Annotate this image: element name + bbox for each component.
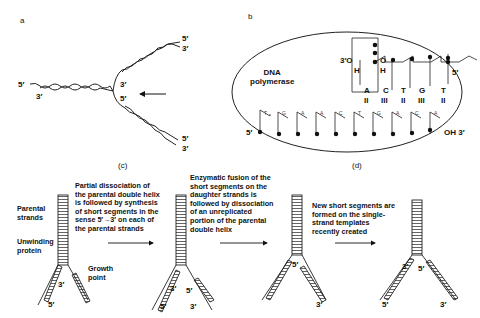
label: OH 3′ <box>444 128 465 137</box>
label: 3′O <box>340 56 353 65</box>
bond: II <box>364 96 368 105</box>
label: 3′ <box>182 44 188 53</box>
base: C <box>383 86 389 95</box>
label: 5′ <box>48 300 54 309</box>
panel-d-letter: (d) <box>352 161 362 170</box>
label: 5′ <box>418 264 424 273</box>
label: 5′ <box>18 80 24 89</box>
label: 5′ <box>186 286 192 295</box>
template-base: C <box>339 110 343 116</box>
base: T <box>401 86 406 95</box>
enzyme-label: DNA polymerase <box>250 68 294 86</box>
bond: II <box>441 96 445 105</box>
bond: II <box>401 96 405 105</box>
label: 5′ <box>246 128 252 137</box>
template-base: A <box>320 110 323 116</box>
label: 5′ <box>120 94 126 103</box>
panel-c-letter: (c) <box>118 161 127 170</box>
label: 3′ <box>440 300 446 309</box>
label: 5′ <box>292 260 298 269</box>
base: A <box>364 86 370 95</box>
template-base: T <box>358 110 361 116</box>
label: 5′ <box>182 34 188 43</box>
label: 3′ <box>58 280 64 289</box>
step1-caption: Partial dissociation of the parental dou… <box>75 182 160 234</box>
panel-b-letter: b <box>248 12 252 21</box>
bond: III <box>381 96 388 105</box>
template-base: G <box>282 110 286 116</box>
label: 5′ <box>182 134 188 143</box>
label: H <box>354 66 360 75</box>
template-base: T <box>264 110 267 116</box>
label: 3′ <box>170 284 176 293</box>
label: 3′ <box>402 262 408 271</box>
parental-strands-label: Parental strands <box>17 205 45 222</box>
label: 5′ <box>452 68 458 77</box>
label: 3′ <box>120 80 126 89</box>
label: 5′ <box>160 302 166 311</box>
step2-caption: Enzymatic fusion of the short segments o… <box>190 174 273 234</box>
step3-caption: New short segments are formed on the sin… <box>312 202 395 236</box>
template-base: G <box>377 110 381 116</box>
label: 3′ <box>190 302 196 311</box>
unwinding-protein-label: Unwinding protein <box>17 238 54 255</box>
template-base: A <box>396 110 399 116</box>
label: O <box>380 56 386 65</box>
bond: III <box>418 96 425 105</box>
label: H <box>380 66 386 75</box>
growth-point-label: Growth point <box>88 265 113 282</box>
panel-a-letter: a <box>20 16 24 25</box>
label: 5′ <box>382 300 388 309</box>
base: T <box>441 86 446 95</box>
label: 3′ <box>36 92 42 101</box>
label: 3′ <box>316 300 322 309</box>
template-base: A <box>434 110 437 116</box>
label: 3′ <box>182 144 188 153</box>
template-base: A <box>301 110 304 116</box>
template-base: C <box>415 110 419 116</box>
base: G <box>419 86 425 95</box>
